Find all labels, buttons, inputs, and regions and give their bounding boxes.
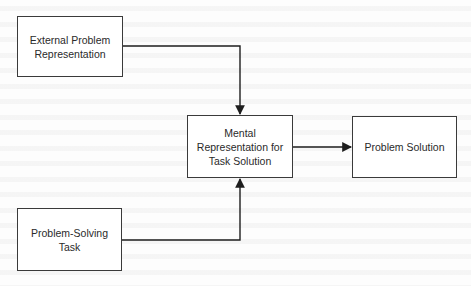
node-label: Problem Solution bbox=[365, 140, 445, 154]
node-label: External Problem Representation bbox=[30, 33, 111, 61]
edge-external-to-mental bbox=[123, 46, 240, 114]
edge-task-to-mental bbox=[122, 179, 240, 240]
diagram-page: External Problem Representation Mental R… bbox=[0, 0, 471, 286]
node-mental-representation-for-task-solution: Mental Representation for Task Solution bbox=[187, 115, 293, 178]
node-label: Mental Representation for Task Solution bbox=[197, 126, 283, 168]
node-problem-solution: Problem Solution bbox=[352, 116, 457, 178]
node-external-problem-representation: External Problem Representation bbox=[17, 16, 123, 77]
node-label: Problem-Solving Task bbox=[31, 226, 108, 254]
node-problem-solving-task: Problem-Solving Task bbox=[17, 208, 122, 271]
